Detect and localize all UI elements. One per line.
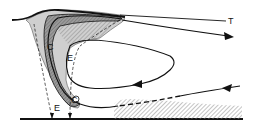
- outflow-arrowhead: [224, 32, 234, 40]
- entrainment-label-lower: E: [54, 103, 60, 113]
- precipitation-area: [114, 99, 242, 119]
- convergence-label-upper: C: [47, 42, 54, 52]
- entrainment-label-upper: E: [67, 53, 73, 63]
- storm-cross-section-diagram: T C E C E: [0, 0, 253, 130]
- inflow-streamline-lower: [80, 104, 118, 108]
- tropopause-line: [120, 15, 226, 21]
- outflow-streamline: [122, 20, 228, 36]
- rotor-circulation-loop: [66, 40, 174, 89]
- inflow-arrowhead: [222, 84, 232, 92]
- tropopause-label: T: [228, 16, 234, 26]
- convergence-label-lower: C: [71, 95, 78, 105]
- rotor-arrowhead: [132, 80, 142, 88]
